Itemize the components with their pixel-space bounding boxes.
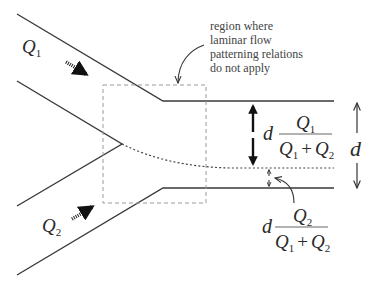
inlet-divider-wall — [17, 81, 122, 206]
stream1-width-formula: d Q1 Q1+Q2 — [263, 112, 334, 161]
annotation-line-1: region where — [210, 19, 273, 33]
stream2-curved-arrow-icon — [275, 178, 294, 203]
stream1-d: d — [263, 122, 274, 144]
laminar-flow-diagram: Q1 Q2 region where laminar flow patterni… — [0, 0, 378, 285]
annotation-line-3: patterning relations — [210, 47, 303, 61]
stream1-numerator: Q1 — [296, 112, 315, 135]
channel-width-label: d — [350, 136, 362, 161]
stream2-denominator: Q1+Q2 — [275, 231, 330, 254]
annotation-curved-arrow-icon — [178, 45, 204, 83]
stream1-denominator: Q1+Q2 — [279, 138, 334, 161]
stream2-numerator: Q2 — [293, 205, 312, 228]
annotation-line-2: laminar flow — [210, 33, 272, 47]
inlet1-flow-arrow — [66, 62, 86, 74]
annotation-line-4: do not apply — [210, 61, 270, 75]
inlet2-flow-arrow — [72, 207, 92, 219]
channel-width-arrow: d — [350, 103, 362, 188]
inlet2-label: Q2 — [42, 215, 61, 238]
non-laminar-region-box — [103, 85, 206, 203]
region-annotation: region where laminar flow patterning rel… — [178, 19, 303, 83]
stream2-width-formula: d Q2 Q1+Q2 — [262, 205, 330, 254]
stream2-d: d — [262, 215, 273, 237]
inlet1-label: Q1 — [22, 36, 41, 59]
